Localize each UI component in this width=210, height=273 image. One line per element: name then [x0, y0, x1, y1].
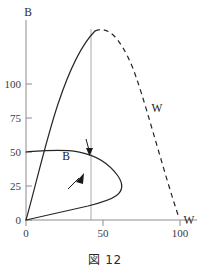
- y-tick-label-50: 50: [10, 146, 22, 158]
- b-nullcline-curve: [26, 150, 122, 220]
- w-nullcline-dashed-branch: [95, 30, 179, 218]
- y-tick-label-100: 100: [5, 78, 22, 90]
- y-axis-title: B: [24, 6, 32, 18]
- w-nullcline-label: W: [152, 102, 163, 114]
- w-nullcline-solid-branch: [26, 31, 95, 220]
- y-tick-label-0: 0: [16, 214, 22, 226]
- x-tick-label-0: 0: [23, 227, 29, 239]
- x-axis-title: W: [184, 214, 195, 226]
- figure-container: 0 25 50 75 100 0 50 100 B W B W: [0, 0, 210, 273]
- b-nullcline-label: B: [62, 150, 70, 162]
- y-tick-label-75: 75: [10, 112, 22, 124]
- x-tick-label-50: 50: [98, 227, 110, 239]
- figure-caption: 図 12: [0, 250, 210, 267]
- x-tick-label-100: 100: [172, 227, 189, 239]
- phase-plane-plot: 0 25 50 75 100 0 50 100 B W B W: [0, 0, 210, 273]
- flow-arrow-up: [68, 173, 84, 189]
- y-tick-label-25: 25: [10, 180, 22, 192]
